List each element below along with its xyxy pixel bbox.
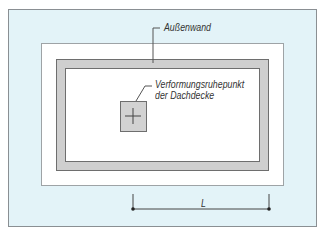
rest-point-leader <box>136 86 152 101</box>
dimension-endpoint-icon <box>267 207 271 211</box>
outer-wall-leader <box>153 28 160 63</box>
dimension-endpoint-icon <box>131 207 135 211</box>
outer-wall-label: Außenwand <box>164 22 211 33</box>
rest-point-label-line1: Verformungsruhepunkt <box>155 79 244 90</box>
rest-point-label-line2: der Dachdecke <box>155 90 214 101</box>
plus-icon <box>125 108 141 124</box>
dimension-label: L <box>201 198 206 209</box>
diagram-lines <box>0 0 323 233</box>
